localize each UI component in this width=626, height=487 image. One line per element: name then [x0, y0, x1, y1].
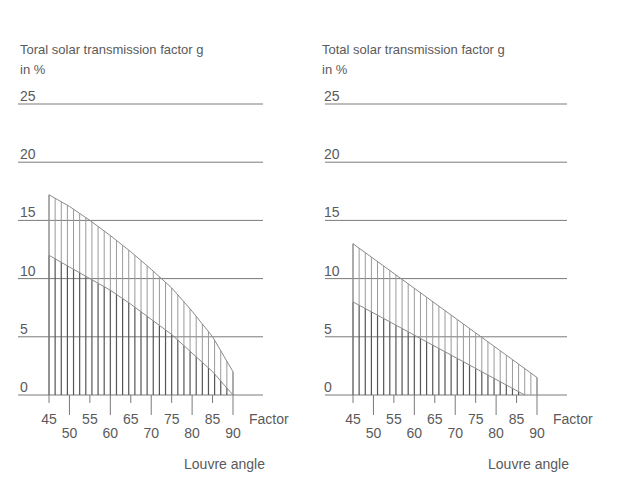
- y-tick-label: 0: [20, 379, 28, 395]
- x-tick-label: 90: [225, 425, 241, 441]
- x-tick-label: 75: [468, 411, 484, 427]
- x-unit-label: Factor: [553, 411, 593, 427]
- y-tick-label: 25: [324, 88, 340, 104]
- x-tick-label: 45: [41, 411, 57, 427]
- y-tick-label: 20: [20, 146, 36, 162]
- y-tick-label: 15: [20, 204, 36, 220]
- x-tick-label: 65: [427, 411, 443, 427]
- y-tick-label: 20: [324, 146, 340, 162]
- x-axis-label: Louvre angle: [184, 456, 265, 472]
- y-tick-label: 5: [20, 321, 28, 337]
- x-tick-label: 55: [386, 411, 402, 427]
- y-tick-label: 10: [20, 263, 36, 279]
- x-tick-label: 50: [366, 425, 382, 441]
- y-tick-label: 25: [20, 88, 36, 104]
- x-tick-label: 65: [123, 411, 139, 427]
- x-unit-label: Factor: [249, 411, 289, 427]
- x-tick-label: 85: [205, 411, 221, 427]
- y-tick-label: 15: [324, 204, 340, 220]
- x-tick-label: 70: [447, 425, 463, 441]
- x-tick-label: 55: [82, 411, 98, 427]
- y-tick-label: 10: [324, 263, 340, 279]
- x-tick-label: 80: [184, 425, 200, 441]
- chart-panel-right: Total solar transmission factor g in % 0…: [313, 0, 626, 487]
- x-tick-label: 70: [143, 425, 159, 441]
- x-axis-label: Louvre angle: [488, 456, 569, 472]
- x-tick-label: 50: [62, 425, 78, 441]
- x-tick-label: 60: [407, 425, 423, 441]
- chart-svg: 051015202545556575855060708090FactorLouv…: [0, 0, 313, 487]
- x-tick-label: 85: [509, 411, 525, 427]
- x-tick-label: 90: [529, 425, 545, 441]
- chart-svg: 051015202545556575855060708090FactorLouv…: [313, 0, 626, 487]
- y-tick-label: 5: [324, 321, 332, 337]
- x-tick-label: 45: [345, 411, 361, 427]
- x-tick-label: 80: [488, 425, 504, 441]
- x-tick-label: 60: [103, 425, 119, 441]
- y-tick-label: 0: [324, 379, 332, 395]
- chart-panel-left: Toral solar transmission factor g in % 0…: [0, 0, 313, 487]
- x-tick-label: 75: [164, 411, 180, 427]
